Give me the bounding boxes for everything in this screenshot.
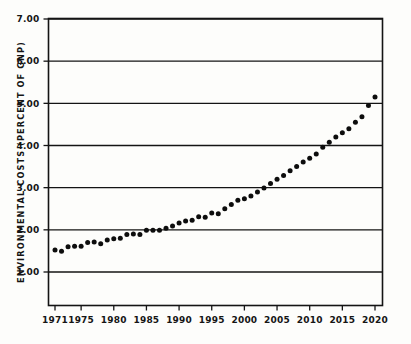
data-point <box>281 173 286 178</box>
data-point <box>124 232 129 237</box>
data-point <box>340 130 345 135</box>
data-point <box>53 248 58 253</box>
data-point <box>261 186 266 191</box>
data-point <box>255 189 260 194</box>
data-point <box>137 232 142 237</box>
data-point <box>59 249 64 254</box>
data-point <box>170 224 175 229</box>
data-point <box>288 168 293 173</box>
data-point <box>177 221 182 226</box>
chart-figure: 1.002.003.004.005.006.007.00 19711975198… <box>0 0 411 344</box>
y-axis-tick-label: 7.00 <box>16 14 39 24</box>
data-point <box>111 236 116 241</box>
x-axis-tick-label: 1971 <box>42 315 68 325</box>
data-point <box>79 244 84 249</box>
data-point <box>196 214 201 219</box>
data-point <box>268 181 273 186</box>
data-point <box>333 135 338 140</box>
data-point <box>353 120 358 125</box>
x-axis-ticks-group: 1971197519801985199019952000200520102015… <box>42 306 388 325</box>
x-axis-tick-label: 1980 <box>101 315 127 325</box>
data-point <box>235 198 240 203</box>
data-point <box>275 177 280 182</box>
x-axis-tick-label: 1995 <box>199 315 225 325</box>
data-point <box>183 218 188 223</box>
data-point <box>92 240 97 245</box>
data-point <box>203 215 208 220</box>
data-point <box>248 194 253 199</box>
data-point <box>150 228 155 233</box>
data-point <box>209 210 214 215</box>
data-point <box>157 228 162 233</box>
data-point <box>314 151 319 156</box>
x-axis-tick-label: 2020 <box>362 315 388 325</box>
x-axis-tick-label: 1990 <box>166 315 192 325</box>
data-point <box>222 206 227 211</box>
data-point <box>164 226 169 231</box>
data-point <box>229 202 234 207</box>
x-axis-tick-label: 2005 <box>264 315 290 325</box>
data-point <box>216 211 221 216</box>
data-point <box>346 126 351 131</box>
data-point <box>366 103 371 108</box>
data-point <box>144 228 149 233</box>
x-axis-tick-label: 1985 <box>133 315 159 325</box>
data-point <box>307 156 312 161</box>
data-point <box>131 232 136 237</box>
data-point <box>85 240 90 245</box>
data-point <box>98 241 103 246</box>
x-axis-tick-label: 2015 <box>329 315 355 325</box>
data-point <box>118 236 123 241</box>
data-point <box>373 95 378 100</box>
data-point <box>66 244 71 249</box>
x-axis-tick-label: 2000 <box>231 315 257 325</box>
y-axis-title-group: ENVIRONMENTAL COSTS (PERCENT OF GNP) <box>16 41 26 283</box>
data-point <box>72 244 77 249</box>
data-point <box>301 159 306 164</box>
data-point <box>320 145 325 150</box>
chart-canvas: 1.002.003.004.005.006.007.00 19711975198… <box>0 0 411 344</box>
y-axis-title: ENVIRONMENTAL COSTS (PERCENT OF GNP) <box>16 41 26 283</box>
data-point <box>327 140 332 145</box>
x-axis-tick-label: 2010 <box>297 315 323 325</box>
data-point <box>190 218 195 223</box>
data-point <box>105 237 110 242</box>
gridlines-group <box>49 19 383 272</box>
data-point <box>242 196 247 201</box>
x-axis-tick-label: 1975 <box>68 315 94 325</box>
data-point <box>359 114 364 119</box>
data-point <box>294 164 299 169</box>
